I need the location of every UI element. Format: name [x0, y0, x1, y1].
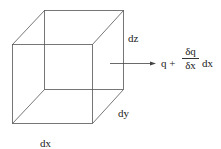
label-dx: dx: [40, 138, 51, 149]
cube-back-face: [45, 11, 124, 90]
fraction-denominator: δx: [185, 59, 196, 71]
equation-lhs: q +: [161, 58, 175, 69]
fraction-numerator: δq: [185, 45, 196, 57]
cube-front-face: [13, 45, 93, 124]
label-dy: dy: [118, 108, 129, 119]
cube-diagram: [0, 0, 221, 149]
equation-fraction: δq δx: [182, 46, 199, 71]
equation-suffix: dx: [202, 58, 213, 69]
label-dz: dz: [128, 33, 138, 44]
flux-arrow: [110, 62, 156, 66]
